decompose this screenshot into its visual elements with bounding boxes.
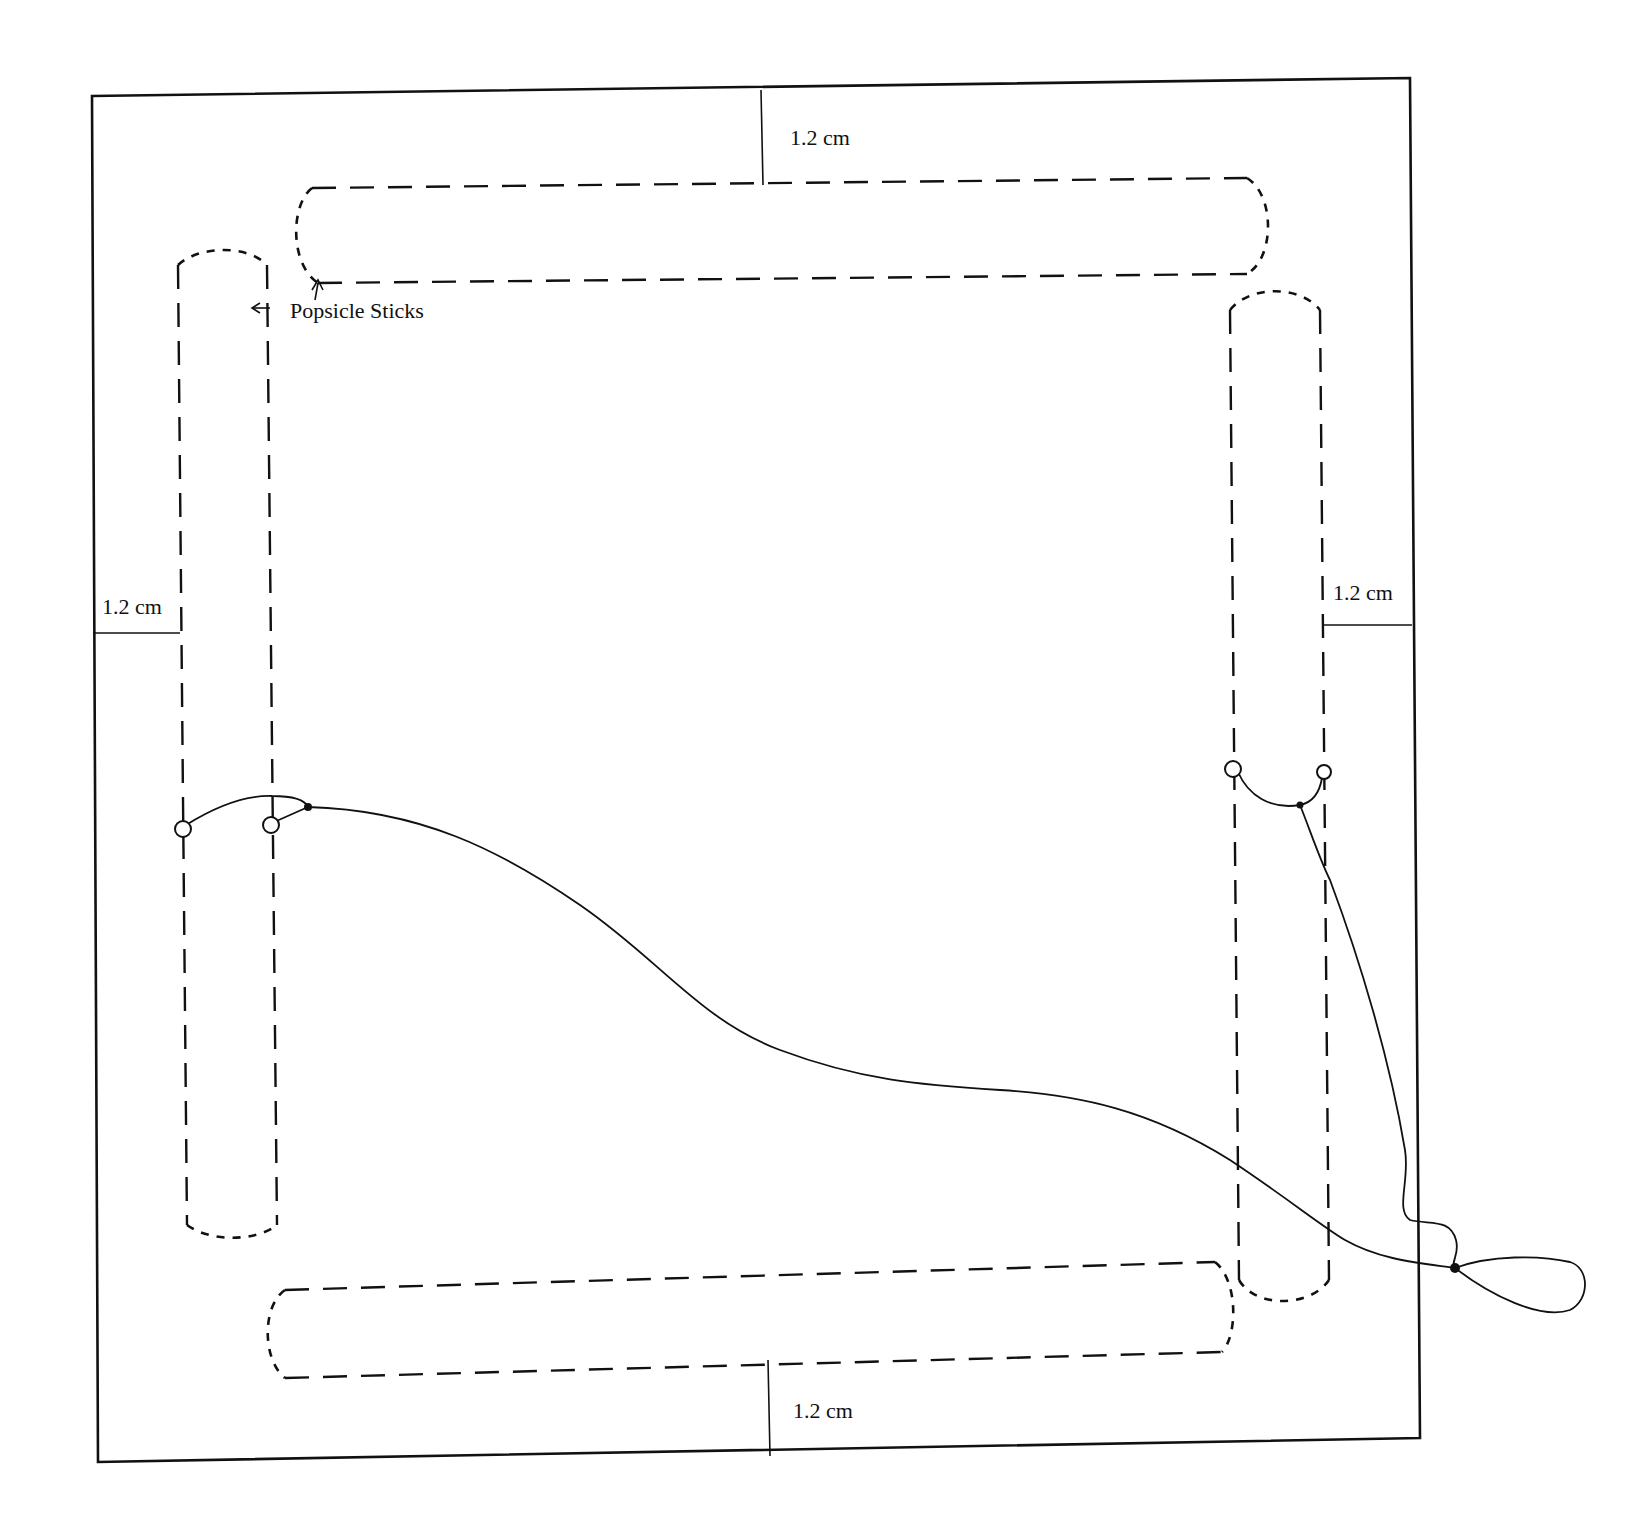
right-knot	[1297, 802, 1304, 809]
dimension-top-label: 1.2 cm	[790, 125, 850, 150]
popsicle-stick-top	[296, 178, 1268, 283]
eyelet-right-outer	[1317, 765, 1331, 779]
dimension-bottom-label: 1.2 cm	[793, 1398, 853, 1423]
popsicle-stick-bottom	[268, 1262, 1233, 1378]
left-knot	[304, 803, 312, 811]
eyelet-right-inner	[1225, 761, 1241, 777]
dimension-bottom: 1.2 cm	[768, 1360, 853, 1456]
dimension-right-label: 1.2 cm	[1333, 580, 1393, 605]
popsicle-stick-frame-diagram: 1.2 cm 1.2 cm 1.2 cm 1.2 cm Popsicle Sti…	[0, 0, 1647, 1518]
popsicle-stick-left	[178, 250, 277, 1238]
eyelet-left-outer	[175, 821, 191, 837]
dimension-top: 1.2 cm	[761, 90, 850, 185]
dimension-right: 1.2 cm	[1323, 580, 1412, 625]
dimension-left-label: 1.2 cm	[102, 594, 162, 619]
dimension-left: 1.2 cm	[93, 594, 180, 633]
popsicle-sticks-callout: Popsicle Sticks	[252, 280, 424, 323]
outer-frame	[92, 78, 1420, 1462]
popsicle-sticks-label: Popsicle Sticks	[290, 298, 424, 323]
eyelet-left-inner	[263, 817, 279, 833]
string	[186, 772, 1585, 1312]
loop-knot	[1450, 1263, 1460, 1273]
